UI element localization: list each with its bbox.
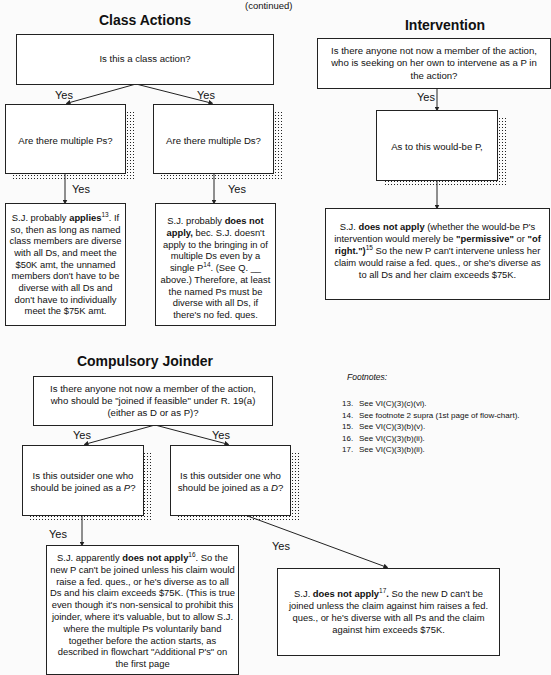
joined-as-p-box: Is this outsider one who should be joine…	[22, 445, 144, 516]
footnotes-title: Footnotes:	[347, 372, 387, 382]
yes-label: Yes	[228, 183, 246, 195]
ds-result-text: S.J. probably does not apply, bec. S.J. …	[159, 215, 272, 320]
class-actions-title: Class Actions	[85, 12, 205, 28]
footnote-item: 13.See VI(C)(3)(c)(vi).	[342, 398, 520, 410]
joined-as-d-box: Is this outsider one who should be joine…	[170, 445, 291, 516]
joinder-question-box: Is there anyone not now a member of the …	[33, 376, 273, 426]
joinder-question: Is there anyone not now a member of the …	[44, 383, 262, 420]
ps-result-text: S.J. probably applies13. If so, then as …	[9, 212, 122, 317]
continued-label: (continued)	[245, 0, 293, 11]
p-joinder-result-box: S.J. apparently does not apply16. So the…	[46, 545, 239, 675]
yes-label: Yes	[49, 528, 67, 540]
yes-label: Yes	[197, 89, 215, 101]
yes-label: Yes	[212, 429, 230, 441]
footnote-item: 17.See VI(C)(3)(b)(ii).	[342, 444, 520, 456]
yes-label: Yes	[55, 89, 73, 101]
multiple-ps-box: Are there multiple Ps?	[5, 104, 126, 174]
intervention-title: Intervention	[390, 17, 500, 33]
intervention-question: Is there anyone not now a member of the …	[330, 45, 538, 82]
multiple-ds-question: Are there multiple Ds?	[166, 135, 261, 147]
compulsory-joinder-title: Compulsory Joinder	[70, 353, 220, 369]
class-action-question-box: Is this a class action?	[16, 34, 274, 85]
d-joinder-result-box: S.J. does not apply17. So the new D can'…	[277, 568, 500, 656]
would-be-p-box: As to this would-be P,	[376, 110, 498, 181]
multiple-ds-box: Are there multiple Ds?	[153, 104, 274, 174]
yes-label: Yes	[272, 540, 290, 552]
joined-as-p-question: Is this outsider one who should be joine…	[28, 470, 138, 494]
joined-as-d-question: Is this outsider one who should be joine…	[176, 470, 285, 494]
intervention-result-text: S.J. does not apply (whether the would-b…	[330, 221, 545, 281]
d-joinder-result-text: S.J. does not apply17. So the new D can'…	[288, 588, 489, 635]
footnote-item: 15.See VI(C)(3)(b)(v).	[342, 421, 520, 433]
footnote-item: 14.See footnote 2 supra (1st page of flo…	[342, 410, 520, 422]
p-joinder-result-text: S.J. apparently does not apply16. So the…	[50, 552, 235, 670]
ds-result-box: S.J. probably does not apply, bec. S.J. …	[155, 203, 276, 326]
class-action-question: Is this a class action?	[99, 53, 190, 65]
intervention-question-box: Is there anyone not now a member of the …	[317, 38, 551, 89]
yes-label: Yes	[72, 183, 90, 195]
footnote-item: 16.See VI(C)(3)(b)(ii).	[342, 433, 520, 445]
would-be-p-text: As to this would-be P,	[391, 141, 483, 153]
multiple-ps-question: Are there multiple Ps?	[18, 135, 112, 147]
intervention-result-box: S.J. does not apply (whether the would-b…	[325, 208, 550, 300]
yes-label: Yes	[417, 91, 435, 103]
footnotes-list: 13.See VI(C)(3)(c)(vi). 14.See footnote …	[342, 398, 520, 456]
yes-label: Yes	[73, 429, 91, 441]
ps-result-box: S.J. probably applies13. If so, then as …	[5, 203, 126, 326]
